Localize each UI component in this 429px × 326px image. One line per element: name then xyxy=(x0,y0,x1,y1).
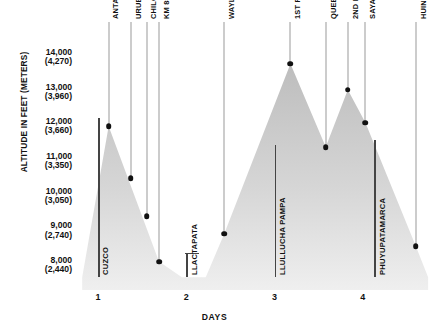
point-leader-line xyxy=(108,22,109,126)
point-leader-line xyxy=(158,22,159,262)
y-tick-meters: (3,050) xyxy=(14,196,72,205)
y-axis-tick-group: 14,000(4,270)13,000(3,960)12,000(3,660)1… xyxy=(14,0,72,326)
x-axis-tick: 3 xyxy=(272,292,277,302)
x-axis-tick: 4 xyxy=(360,292,365,302)
point-leader-line xyxy=(290,22,291,64)
site-marker-bar xyxy=(275,145,277,277)
data-point-label: KM 88 xyxy=(162,0,171,19)
data-point-label: HUINAY HUAYNA xyxy=(419,0,428,19)
y-axis-tick: 11,000(3,350) xyxy=(14,152,72,171)
y-axis-tick: 14,000(4,270) xyxy=(14,48,72,67)
site-label: LLACTAPATA xyxy=(190,224,199,275)
y-axis-tick: 10,000(3,050) xyxy=(14,187,72,206)
point-leader-line xyxy=(325,22,326,147)
data-point-marker[interactable] xyxy=(413,243,419,249)
data-point-marker[interactable] xyxy=(221,231,227,237)
y-axis-tick: 9,000(2,740) xyxy=(14,221,72,240)
data-point-label: WAYLLABAMBA xyxy=(227,0,236,19)
data-point-label: 1ST PASS xyxy=(293,0,302,19)
data-point-label: QUEBRADA PACAMAYO xyxy=(329,0,338,19)
point-leader-line xyxy=(130,22,131,178)
site-label: CUZCO xyxy=(101,247,110,275)
site-marker-bar xyxy=(98,118,100,278)
data-point-label: ANTA PLATEAU xyxy=(111,0,120,19)
point-leader-line xyxy=(365,22,366,123)
data-point-label: URUBAMBA VALLEY xyxy=(134,0,143,19)
y-axis-tick: 12,000(3,660) xyxy=(14,117,72,136)
x-axis-title: DAYS xyxy=(0,312,429,322)
plot-area xyxy=(76,0,429,326)
y-axis-tick: 13,000(3,960) xyxy=(14,83,72,102)
point-leader-line xyxy=(146,22,147,216)
site-marker-bar xyxy=(374,140,376,277)
data-point-marker[interactable] xyxy=(323,144,329,150)
y-tick-meters: (3,350) xyxy=(14,161,72,170)
data-point-marker[interactable] xyxy=(345,87,351,93)
site-marker-bar xyxy=(186,253,188,277)
data-point-label: SAYAJMARCA xyxy=(368,0,377,19)
y-tick-meters: (2,740) xyxy=(14,231,72,240)
data-point-marker[interactable] xyxy=(288,61,294,67)
point-leader-line xyxy=(347,22,348,90)
site-label: LLULLUCHA PAMPA xyxy=(278,197,287,275)
site-label: PHUYUPATAMARCA xyxy=(378,198,387,275)
point-leader-line xyxy=(224,22,225,234)
x-axis-tick: 1 xyxy=(96,292,101,302)
terrain-area-path xyxy=(76,0,429,326)
data-point-marker[interactable] xyxy=(128,175,134,181)
y-tick-meters: (3,960) xyxy=(14,92,72,101)
y-tick-meters: (4,270) xyxy=(14,57,72,66)
data-point-label: CHILCA xyxy=(149,0,158,19)
data-point-marker[interactable] xyxy=(363,120,369,126)
y-axis-tick: 8,000(2,440) xyxy=(14,256,72,275)
data-point-marker[interactable] xyxy=(156,259,162,265)
data-point-marker[interactable] xyxy=(106,123,112,129)
y-tick-meters: (3,660) xyxy=(14,126,72,135)
data-point-label: 2ND PASS xyxy=(351,0,360,19)
elevation-profile-chart: ALTITUDE IN FEET (METERS) 14,000(4,270)1… xyxy=(0,0,429,326)
point-leader-line xyxy=(415,22,416,246)
x-axis-tick: 2 xyxy=(184,292,189,302)
data-point-marker[interactable] xyxy=(144,214,150,220)
y-tick-meters: (2,440) xyxy=(14,265,72,274)
